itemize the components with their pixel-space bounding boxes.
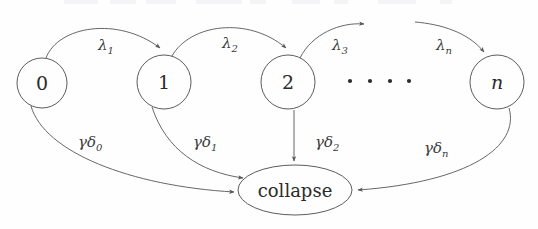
lambda-1-base: λ [97,36,108,54]
gamma-delta-0-base: γδ [78,133,96,151]
edge-label-gamma-delta-0: γδ0 [78,133,103,153]
svg-text:γδ2: γδ2 [315,133,339,153]
lambda-2-subscript: 2 [231,43,238,54]
lambda-n-base: λ [435,36,446,54]
node-1[interactable]: 1 [137,55,191,109]
edge-label-gamma-delta-n: γδn [424,139,448,159]
svg-text:γδ1: γδ1 [193,133,217,153]
node-n[interactable]: n [470,55,524,109]
node-0[interactable]: 0 [17,58,67,108]
cropped-text-remnant-strip [64,0,452,4]
node-collapse-label: collapse [258,180,333,201]
lambda-3-base: λ [331,36,342,54]
horizontal-ellipsis-icon [348,79,411,83]
node-0-label: 0 [36,72,48,94]
edge-label-lambda-2: λ2 [221,34,238,54]
svg-text:γδn: γδn [424,139,448,159]
svg-text:γδ0: γδ0 [78,133,103,153]
svg-text:λ2: λ2 [221,34,238,54]
gamma-delta-2-subscript: 2 [332,142,339,153]
lambda-1-subscript: 1 [108,45,114,56]
gamma-delta-n-subscript: n [442,148,448,159]
svg-text:λ1: λ1 [97,36,114,56]
node-n-label: n [491,71,503,93]
edge-label-lambda-1: λ1 [97,36,114,56]
lambda-2-base: λ [221,34,232,52]
node-1-label: 1 [158,71,170,93]
edge-label-lambda-n: λn [435,36,452,56]
node-collapse[interactable]: collapse [238,165,352,215]
gamma-delta-0-subscript: 0 [96,142,103,153]
state-transition-diagram: 0 1 2 n collapse λ1 [0,0,538,229]
lambda-n-subscript: n [446,45,452,56]
gamma-delta-n-base: γδ [424,139,442,157]
gamma-delta-1-subscript: 1 [211,142,217,153]
svg-text:λn: λn [435,36,452,56]
edge-label-gamma-delta-1: γδ1 [193,133,217,153]
svg-text:λ3: λ3 [331,36,348,56]
edge-label-gamma-delta-2: γδ2 [315,133,339,153]
node-2[interactable]: 2 [261,55,315,109]
gamma-delta-1-base: γδ [193,133,211,151]
node-2-label: 2 [282,71,294,93]
edge-label-lambda-3: λ3 [331,36,348,56]
lambda-3-subscript: 3 [342,45,348,56]
gamma-delta-2-base: γδ [315,133,333,151]
